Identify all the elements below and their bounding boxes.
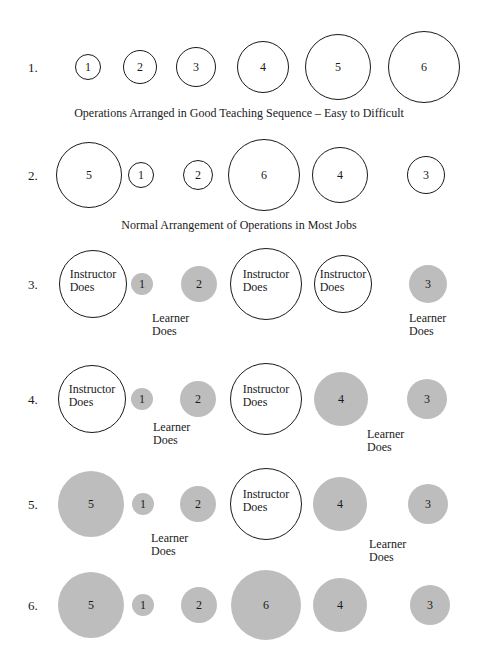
operation-circle: 5 xyxy=(56,142,122,208)
instructor-does-label: Instructor Does xyxy=(70,268,117,294)
operation-circle: 4 xyxy=(312,147,368,203)
operation-circle: 2 xyxy=(123,50,157,84)
operation-number: 1 xyxy=(85,61,91,74)
operation-circle: Instructor Does xyxy=(314,255,372,313)
operation-circle: 5 xyxy=(305,34,371,100)
learner-operation-circle: 2 xyxy=(181,587,217,623)
row-number-label: 4. xyxy=(28,393,38,406)
operation-number: 3 xyxy=(425,278,431,291)
row-number-label: 2. xyxy=(28,169,38,182)
learner-operation-circle: 1 xyxy=(132,594,154,616)
instructor-does-label: Instructor Does xyxy=(69,383,116,409)
learner-operation-circle: 4 xyxy=(313,578,367,632)
operation-circle: 1 xyxy=(128,162,154,188)
learner-operation-circle: 1 xyxy=(131,273,153,295)
operation-number: 5 xyxy=(86,169,92,182)
operation-number: 2 xyxy=(137,61,143,74)
operation-circle: 6 xyxy=(388,31,460,103)
learner-operation-circle: 5 xyxy=(58,572,124,638)
operation-number: 6 xyxy=(421,61,427,74)
learner-does-label: Learner Does xyxy=(151,532,188,558)
operation-number: 3 xyxy=(425,498,431,511)
operation-number: 4 xyxy=(338,393,344,406)
operation-circle: Instructor Does xyxy=(230,248,302,320)
operation-number: 3 xyxy=(193,61,199,74)
operation-number: 5 xyxy=(335,61,341,74)
operation-circle: Instructor Does xyxy=(230,468,302,540)
operation-number: 2 xyxy=(196,599,202,612)
learner-operation-circle: 4 xyxy=(313,477,367,531)
instructor-does-label: Instructor Does xyxy=(243,488,290,514)
learner-does-label: Learner Does xyxy=(152,312,189,338)
learner-operation-circle: 3 xyxy=(407,379,447,419)
operation-number: 1 xyxy=(140,599,146,612)
operation-circle: 4 xyxy=(237,41,289,93)
learner-operation-circle: 2 xyxy=(180,381,216,417)
operation-circle: 1 xyxy=(75,54,101,80)
operation-circle: Instructor Does xyxy=(58,365,126,433)
operation-number: 1 xyxy=(139,393,145,406)
operation-number: 2 xyxy=(195,498,201,511)
operation-number: 1 xyxy=(138,169,144,182)
operation-number: 3 xyxy=(427,599,433,612)
learner-does-label: Learner Does xyxy=(369,538,406,564)
operation-number: 4 xyxy=(260,61,266,74)
learner-operation-circle: 3 xyxy=(408,484,448,524)
operation-number: 4 xyxy=(337,599,343,612)
operation-circle: 2 xyxy=(183,160,213,190)
operation-circle: 3 xyxy=(407,156,445,194)
learner-does-label: Learner Does xyxy=(409,312,446,338)
operation-circle: 3 xyxy=(176,47,216,87)
learner-does-label: Learner Does xyxy=(153,421,190,447)
learner-operation-circle: 2 xyxy=(181,266,217,302)
learner-does-label: Learner Does xyxy=(367,428,404,454)
learner-operation-circle: 5 xyxy=(58,471,124,537)
operation-circle: Instructor Does xyxy=(230,363,302,435)
operation-number: 1 xyxy=(139,278,145,291)
operation-number: 4 xyxy=(337,498,343,511)
operation-number: 4 xyxy=(337,169,343,182)
learner-operation-circle: 6 xyxy=(231,570,301,640)
operation-circle: 6 xyxy=(228,139,300,211)
operation-number: 2 xyxy=(195,169,201,182)
learner-operation-circle: 3 xyxy=(410,585,450,625)
operation-number: 6 xyxy=(261,169,267,182)
row-number-label: 3. xyxy=(28,278,38,291)
row-caption: Operations Arranged in Good Teaching Seq… xyxy=(0,106,478,120)
operation-number: 6 xyxy=(263,599,269,612)
row-caption: Normal Arrangement of Operations in Most… xyxy=(0,218,478,232)
instructor-does-label: Instructor Does xyxy=(320,268,367,294)
instructor-does-label: Instructor Does xyxy=(243,383,290,409)
row-number-label: 1. xyxy=(28,61,38,74)
learner-operation-circle: 1 xyxy=(132,493,154,515)
operation-number: 5 xyxy=(88,498,94,511)
operation-number: 3 xyxy=(424,393,430,406)
instructor-does-label: Instructor Does xyxy=(243,268,290,294)
row-number-label: 6. xyxy=(28,599,38,612)
row-number-label: 5. xyxy=(28,498,38,511)
learner-operation-circle: 2 xyxy=(180,486,216,522)
learner-operation-circle: 3 xyxy=(409,265,447,303)
operation-number: 2 xyxy=(195,393,201,406)
operation-number: 5 xyxy=(88,599,94,612)
learner-operation-circle: 4 xyxy=(314,372,368,426)
operation-number: 2 xyxy=(196,278,202,291)
operation-circle: Instructor Does xyxy=(59,250,127,318)
operation-number: 1 xyxy=(140,498,146,511)
operation-number: 3 xyxy=(423,169,429,182)
learner-operation-circle: 1 xyxy=(131,388,153,410)
